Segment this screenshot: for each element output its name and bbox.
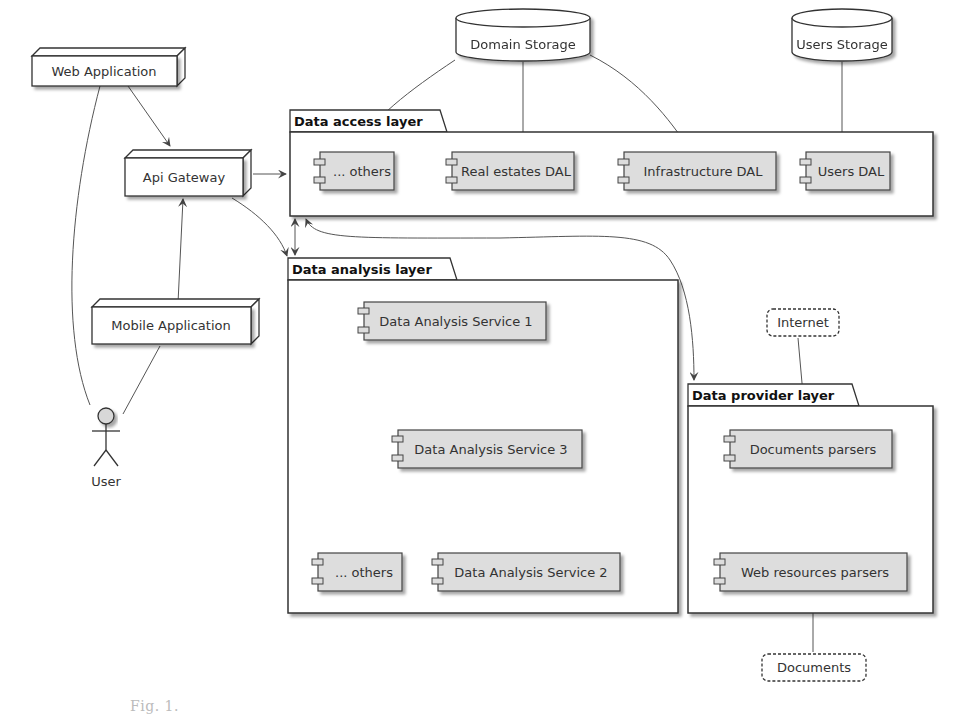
component-label: ... others <box>335 565 393 580</box>
component-documents-parsers: Documents parsers <box>724 430 892 468</box>
component-label: Documents parsers <box>750 442 877 457</box>
component-label: Real estates DAL <box>461 164 572 179</box>
component-users-dal: Users DAL <box>800 152 890 190</box>
node-label: Web Application <box>51 64 156 79</box>
node-label: Api Gateway <box>143 170 226 185</box>
figure-caption: Fig. 1. <box>130 698 179 714</box>
component-label: Infrastructure DAL <box>643 164 763 179</box>
package-data-access-layer: Data access layer ... others Real estate… <box>290 110 933 216</box>
package-title: Data provider layer <box>692 388 835 403</box>
component-real-estates-dal: Real estates DAL <box>446 152 574 190</box>
node-api-gateway: Api Gateway <box>125 150 251 196</box>
component-label: Data Analysis Service 3 <box>414 442 567 457</box>
component-dal-others: ... others <box>314 152 394 190</box>
component-label: Data Analysis Service 2 <box>454 565 607 580</box>
package-data-analysis-layer: Data analysis layer Data Analysis Servic… <box>288 258 678 613</box>
component-analysis-others: ... others <box>312 553 402 591</box>
architecture-diagram: Web Application Api Gateway Mobile Appli… <box>0 0 969 717</box>
component-label: ... others <box>333 164 391 179</box>
component-infrastructure-dal: Infrastructure DAL <box>618 152 776 190</box>
component-data-analysis-service-3: Data Analysis Service 3 <box>392 430 582 468</box>
cloud-internet: Internet <box>767 309 839 336</box>
edge-mobile-user <box>123 346 160 414</box>
node-mobile-application: Mobile Application <box>92 299 259 344</box>
package-title: Data analysis layer <box>292 262 432 277</box>
actor-user: User <box>91 408 121 489</box>
component-web-resources-parsers: Web resources parsers <box>714 553 907 591</box>
component-data-analysis-service-2: Data Analysis Service 2 <box>432 553 620 591</box>
storage-domain: Domain Storage <box>456 9 590 61</box>
package-data-provider-layer: Data provider layer Documents parsers We… <box>688 384 933 613</box>
storage-label: Users Storage <box>796 37 887 52</box>
cloud-label: Documents <box>777 660 851 675</box>
component-label: Data Analysis Service 1 <box>379 314 532 329</box>
storage-users: Users Storage <box>792 9 892 61</box>
node-label: Mobile Application <box>111 318 230 333</box>
edge-mobile-gateway <box>178 199 183 303</box>
component-label: Users DAL <box>818 164 885 179</box>
component-data-analysis-service-1: Data Analysis Service 1 <box>358 302 546 340</box>
package-title: Data access layer <box>294 114 423 129</box>
edge-webapp-gateway <box>128 86 170 146</box>
edge-gateway-analysis <box>232 198 287 256</box>
edge-webapp-user <box>72 86 100 405</box>
storage-label: Domain Storage <box>470 37 575 52</box>
actor-label: User <box>91 474 121 489</box>
cloud-label: Internet <box>777 315 829 330</box>
cloud-documents: Documents <box>762 654 866 681</box>
node-web-application: Web Application <box>32 48 185 86</box>
component-label: Web resources parsers <box>741 565 889 580</box>
